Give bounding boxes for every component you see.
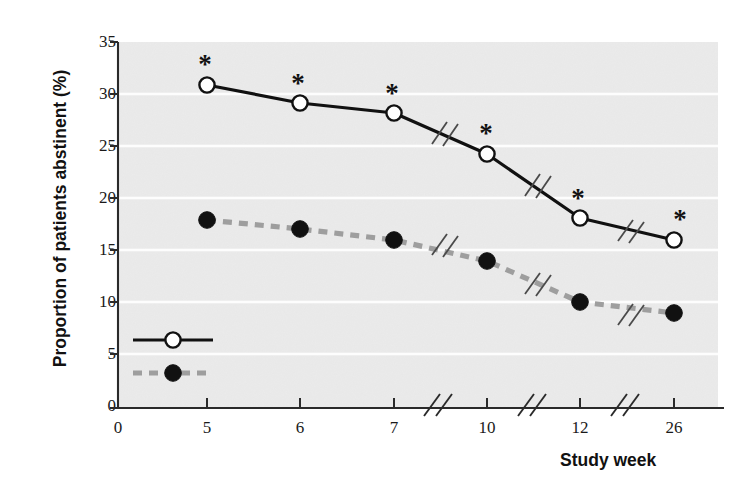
data-point-placebo-w26	[666, 305, 683, 322]
chart-figure: Proportion of patients abstinent (%) Stu…	[0, 0, 737, 494]
asterisk-w6: *	[291, 68, 305, 98]
asterisk-w7: *	[385, 78, 399, 108]
asterisk-w26: *	[673, 204, 687, 234]
data-point-placebo-w5	[199, 212, 216, 229]
data-point-bupropion-w5	[199, 77, 214, 92]
data-point-placebo-w12	[572, 294, 589, 311]
y-axis-ticks	[110, 42, 118, 408]
data-point-bupropion-w26	[666, 232, 681, 247]
asterisk-w10: *	[479, 118, 493, 148]
asterisk-w5: *	[198, 49, 212, 79]
data-point-placebo-w6	[292, 221, 309, 238]
legend-marker-placebo	[165, 365, 182, 382]
legend-marker-bupropion	[165, 332, 180, 347]
data-point-placebo-w7	[386, 232, 403, 249]
data-point-placebo-w10	[479, 253, 496, 270]
plot-canvas: * * * * * *	[0, 0, 737, 494]
data-point-bupropion-w10	[479, 146, 494, 161]
asterisk-w12: *	[571, 183, 585, 213]
